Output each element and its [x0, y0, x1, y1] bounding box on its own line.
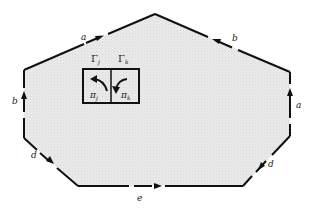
edge-label-d-left: d [31, 150, 37, 160]
polygon-region [24, 14, 290, 186]
edge-label-b-top: b [232, 33, 238, 43]
edge-label-e-bottom: e [137, 193, 142, 203]
edge-label-a-top: a [81, 32, 86, 42]
edge-label-d-right: d [268, 159, 274, 169]
polygon-diagram: a b a d e d b Γj Γk πj πk [0, 0, 310, 211]
edge-label-a-right: a [296, 100, 301, 110]
edge-label-b-left: b [12, 96, 18, 106]
